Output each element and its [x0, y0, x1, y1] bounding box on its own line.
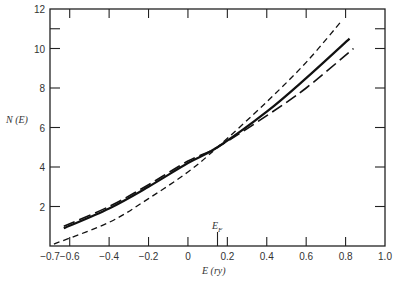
- y-tick-label: 10: [34, 44, 46, 55]
- curve-short-dash: [54, 21, 342, 244]
- y-tick-label: 6: [39, 123, 45, 134]
- fermi-energy-label: EF: [211, 220, 223, 234]
- chart: −0.7−0.6−0.4−0.200.20.40.60.81.024681012…: [0, 0, 398, 282]
- x-tick-label: −0.4: [99, 251, 119, 262]
- curve-solid: [64, 39, 350, 229]
- x-tick-label: −0.7: [40, 251, 60, 262]
- y-axis-label: N (E): [5, 114, 29, 126]
- x-tick-label: 0: [185, 251, 191, 262]
- y-tick-label: 4: [39, 162, 45, 173]
- x-tick-label: −0.2: [139, 251, 159, 262]
- x-tick-label: 1.0: [378, 251, 392, 262]
- x-axis-label: E (ry): [201, 265, 226, 277]
- y-tick-label: 12: [34, 4, 46, 15]
- x-tick-label: −0.6: [60, 251, 80, 262]
- y-tick-label: 2: [39, 202, 45, 213]
- curves: [54, 21, 354, 244]
- x-tick-label: 0.8: [339, 251, 353, 262]
- x-tick-label: 0.4: [260, 251, 274, 262]
- x-tick-label: 0.2: [220, 251, 234, 262]
- x-tick-label: 0.6: [299, 251, 313, 262]
- y-tick-label: 8: [39, 83, 45, 94]
